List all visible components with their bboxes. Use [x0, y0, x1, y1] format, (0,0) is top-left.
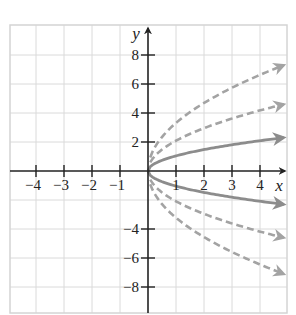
y-tick-label: 6	[132, 76, 140, 92]
curves	[148, 65, 284, 274]
y-tick-label: 4	[132, 105, 140, 121]
x-tick-label: 3	[228, 177, 236, 193]
square-root-graph: −4−3−2−11234−8−6−42468xy	[0, 0, 296, 315]
x-tick-label: −3	[53, 177, 69, 193]
x-tick-label: 4	[256, 177, 264, 193]
x-axis-label: x	[274, 176, 283, 195]
x-tick-label: 1	[172, 177, 180, 193]
axes	[10, 28, 285, 313]
x-tick-label: 2	[200, 177, 208, 193]
x-tick-label: −1	[109, 177, 125, 193]
y-tick-label: −4	[123, 221, 139, 237]
y-tick-label: −8	[123, 279, 139, 295]
curve-solid	[148, 138, 284, 171]
y-tick-label: −6	[123, 250, 139, 266]
x-tick-label: −2	[81, 177, 97, 193]
x-tick-label: −4	[25, 177, 41, 193]
y-tick-label: 8	[132, 47, 140, 63]
y-tick-label: 2	[132, 134, 140, 150]
y-axis-label: y	[130, 24, 140, 43]
